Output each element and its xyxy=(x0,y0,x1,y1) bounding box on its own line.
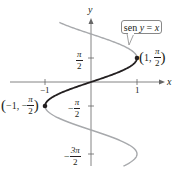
x-axis-arrow-icon xyxy=(159,80,165,85)
equation-callout: sen y = x xyxy=(121,20,162,34)
y-tick-label-neg3pi2: −3π2 xyxy=(64,146,81,167)
x-tick-label-neg1: −1 xyxy=(40,86,50,95)
point-neg1-negpi2 xyxy=(43,104,48,109)
point-label-neg1-negpi2: (−1, −π2) xyxy=(1,95,39,116)
x-axis-label: x xyxy=(167,77,171,87)
callout-pointer-mask xyxy=(128,33,134,35)
x-tick-label-1: 1 xyxy=(135,86,140,95)
callout-eq: = xyxy=(144,22,155,33)
y-axis-label: y xyxy=(88,5,92,15)
y-axis-arrow-icon xyxy=(89,18,94,24)
point-label-1-pi2: (1, π2) xyxy=(139,47,166,68)
y-tick-label-pi2: π2 xyxy=(76,50,83,71)
callout-pointer xyxy=(127,34,134,46)
callout-var-x: x xyxy=(155,22,159,33)
y-tick-label-negpi2: −π2 xyxy=(68,98,80,119)
callout-fn: sen xyxy=(124,22,137,33)
